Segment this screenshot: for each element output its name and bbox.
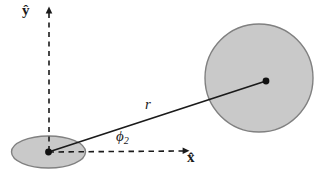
vector-diagram-figure: ŷ x̂ r ϕ2	[0, 0, 333, 178]
origin-point-marker	[45, 149, 52, 156]
large-circle-body	[205, 24, 313, 132]
angle-symbol: ϕ	[116, 128, 124, 144]
radius-label: r	[145, 97, 151, 112]
y-axis-arrowhead-icon	[46, 7, 53, 14]
angle-subscript: 2	[124, 135, 129, 146]
x-axis-label: x̂	[187, 150, 195, 165]
diagram-canvas	[0, 0, 333, 178]
y-axis-label: ŷ	[22, 3, 30, 18]
angle-label: ϕ2	[116, 129, 129, 146]
x-axis-dashed-line	[49, 151, 184, 152]
target-point-marker	[263, 78, 270, 85]
